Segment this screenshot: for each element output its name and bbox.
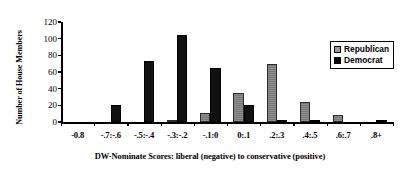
legend-swatch-democrat <box>334 57 341 64</box>
x-axis-tick-label: -.3:-.2 <box>167 130 187 140</box>
bar-dem-6 <box>277 120 287 123</box>
x-axis-tick-mark <box>161 122 162 126</box>
bar-rep-3 <box>167 120 177 122</box>
x-axis-tick-mark <box>360 122 361 126</box>
y-axis-tick-mark <box>58 55 62 56</box>
x-axis-tick-label: .6:.7 <box>336 130 351 140</box>
legend-item-republican: Republican <box>334 44 389 55</box>
legend-swatch-republican <box>334 46 341 53</box>
y-axis-tick-label: 20 <box>48 101 57 110</box>
x-axis-tick-label: -0.8 <box>71 130 84 140</box>
y-axis-tick-label: 80 <box>48 51 57 60</box>
x-axis-tick-mark <box>327 122 328 126</box>
bar-rep-5 <box>233 93 243 122</box>
y-axis-tick-mark <box>58 105 62 106</box>
bar-dem-4 <box>210 68 220 122</box>
y-axis-tick-label: 40 <box>48 84 57 93</box>
x-axis-tick-mark <box>94 122 95 126</box>
x-axis-tick-mark <box>61 122 62 126</box>
x-axis-tick-mark <box>194 122 195 126</box>
legend-item-democrat: Democrat <box>334 55 389 66</box>
y-axis-tick-mark <box>58 38 62 39</box>
x-axis-tick-label: .4:.5 <box>303 130 318 140</box>
x-axis-tick-label: .8+ <box>371 130 382 140</box>
y-axis-tick-label: 0 <box>53 118 58 127</box>
x-axis-tick-label: 0:.1 <box>237 130 250 140</box>
bar-rep-4 <box>200 113 210 122</box>
plot-area: 020406080100120 -0.8-.7:-.6-.5:-.4-.3:-.… <box>61 22 393 122</box>
x-axis-tick-mark <box>293 122 294 126</box>
y-axis-tick-mark <box>58 71 62 72</box>
bar-rep-7 <box>300 102 310 122</box>
y-axis-tick-label: 120 <box>44 18 58 27</box>
bar-dem-9 <box>376 120 386 122</box>
legend-label-democrat: Democrat <box>344 56 383 64</box>
bar-dem-3 <box>177 35 187 122</box>
bar-dem-1 <box>111 105 121 122</box>
x-axis-tick-label: -.5:-.4 <box>134 130 154 140</box>
bar-dem-2 <box>144 61 154 122</box>
x-axis-tick-mark <box>260 122 261 126</box>
legend-label-republican: Republican <box>344 45 389 53</box>
x-axis-title: DW-Nominate Scores: liberal (negative) t… <box>0 152 420 161</box>
bar-dem-5 <box>244 105 254 123</box>
x-axis-tick-mark <box>393 122 394 126</box>
x-axis-tick-label: -.1:0 <box>203 130 218 140</box>
x-axis-tick-label: -.7:-.6 <box>101 130 121 140</box>
y-axis-title: Number of House Members <box>15 18 24 138</box>
bar-rep-8 <box>333 115 343 123</box>
chart-container: Number of House Members 020406080100120 … <box>0 0 420 175</box>
y-axis-tick-mark <box>58 88 62 89</box>
x-axis-tick-mark <box>127 122 128 126</box>
bar-rep-6 <box>267 64 277 122</box>
y-axis-tick-mark <box>58 21 62 22</box>
y-axis-tick-label: 60 <box>48 68 57 77</box>
x-axis-tick-mark <box>227 122 228 126</box>
bar-dem-7 <box>310 120 320 122</box>
chart-legend: Republican Democrat <box>330 41 394 69</box>
y-axis-line <box>61 22 63 122</box>
y-axis-tick-label: 100 <box>44 34 58 43</box>
x-axis-tick-label: .2:.3 <box>269 130 284 140</box>
